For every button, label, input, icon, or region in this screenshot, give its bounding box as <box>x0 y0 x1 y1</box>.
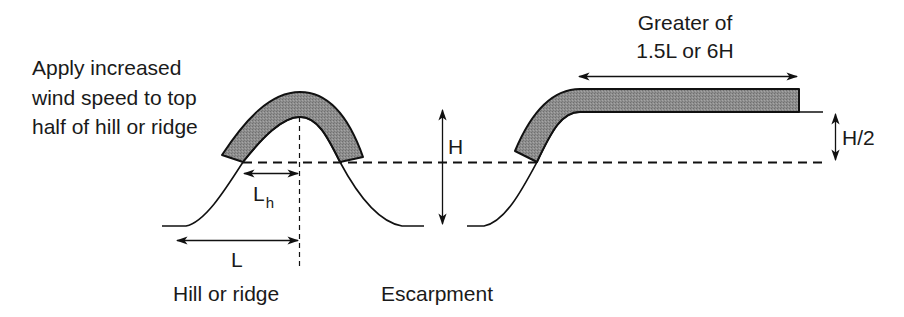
label-half-h: H/2 <box>842 127 875 148</box>
diagram-graphics <box>0 0 904 317</box>
annotation-note: Apply increased wind speed to top half o… <box>32 53 198 142</box>
hill-shaded-band <box>222 92 363 162</box>
label-extent-line-2: 1.5L or 6H <box>620 36 750 64</box>
caption-hill-or-ridge: Hill or ridge <box>173 279 279 309</box>
note-line-3: half of hill or ridge <box>32 112 198 142</box>
label-lh-subscript: h <box>266 194 274 211</box>
caption-escarpment: Escarpment <box>381 279 493 309</box>
label-extent: Greater of 1.5L or 6H <box>620 8 750 64</box>
label-h: H <box>448 136 463 157</box>
wind-topography-diagram: Apply increased wind speed to top half o… <box>0 0 904 317</box>
label-extent-line-1: Greater of <box>620 8 750 36</box>
note-line-1: Apply increased <box>32 53 198 83</box>
note-line-2: wind speed to top <box>32 83 198 113</box>
escarpment-profile <box>467 112 823 226</box>
label-lh-main: L <box>253 182 265 205</box>
label-lh: Lh <box>253 183 274 206</box>
label-l: L <box>231 249 243 270</box>
hill-profile <box>162 117 424 226</box>
